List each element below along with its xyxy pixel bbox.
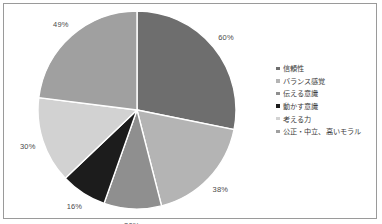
legend-swatch-icon bbox=[276, 104, 280, 108]
pie-percent-label: 30% bbox=[20, 141, 36, 150]
plot-area: 60%38%20%16%30%49% 信頼性バランス感覚伝える意識動かす意識考え… bbox=[4, 4, 378, 220]
legend-item-label: 伝える意識 bbox=[283, 88, 319, 98]
pie-percent-label: 20% bbox=[124, 220, 140, 224]
pie-percent-label: 60% bbox=[218, 33, 234, 42]
chart-frame: 60%38%20%16%30%49% 信頼性バランス感覚伝える意識動かす意識考え… bbox=[3, 3, 377, 219]
legend-item[interactable]: 考える力 bbox=[276, 112, 376, 125]
legend-swatch-icon bbox=[276, 79, 280, 83]
pie-percent-label: 49% bbox=[53, 19, 69, 28]
pie-percent-label: 16% bbox=[67, 202, 83, 211]
legend-item[interactable]: 伝える意識 bbox=[276, 87, 376, 100]
legend-item-label: バランス感覚 bbox=[283, 76, 326, 86]
pie-chart bbox=[37, 10, 237, 210]
legend-item[interactable]: 公正・中立、高いモラル bbox=[276, 125, 376, 138]
pie-svg bbox=[37, 10, 237, 210]
chart-legend: 信頼性バランス感覚伝える意識動かす意識考える力公正・中立、高いモラル bbox=[276, 62, 376, 138]
pie-slice bbox=[137, 11, 236, 130]
legend-item[interactable]: 信頼性 bbox=[276, 62, 376, 75]
legend-item[interactable]: バランス感覚 bbox=[276, 75, 376, 88]
legend-item-label: 考える力 bbox=[283, 114, 311, 124]
legend-swatch-icon bbox=[276, 92, 280, 96]
legend-item-label: 公正・中立、高いモラル bbox=[283, 126, 361, 136]
legend-item-label: 動かす意識 bbox=[283, 101, 319, 111]
legend-item[interactable]: 動かす意識 bbox=[276, 100, 376, 113]
legend-swatch-icon bbox=[276, 130, 280, 134]
legend-swatch-icon bbox=[276, 117, 280, 121]
pie-slice-group bbox=[38, 11, 236, 209]
pie-percent-label: 38% bbox=[213, 185, 229, 194]
legend-swatch-icon bbox=[276, 67, 280, 71]
screenshot-root: 60%38%20%16%30%49% 信頼性バランス感覚伝える意識動かす意識考え… bbox=[0, 0, 382, 224]
legend-item-label: 信頼性 bbox=[283, 63, 304, 73]
